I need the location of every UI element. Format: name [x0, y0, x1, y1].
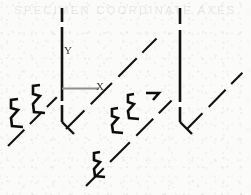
zigzag-symbol-2 — [33, 85, 45, 113]
axis-label-x: X — [96, 81, 104, 92]
diagonal-line-2 — [66, 22, 173, 129]
zigzag-symbol-3 — [112, 108, 123, 133]
zigzag-symbols-group — [11, 85, 159, 177]
line-drawing — [0, 0, 251, 195]
diagonal-lines-group — [8, 22, 249, 186]
vertical-hooks-group — [62, 122, 192, 134]
arrow-tip-symbol-1 — [146, 93, 159, 100]
right-vertical-hook — [180, 122, 192, 134]
figure-canvas: SPECIMEN COORDINATE AXES — [0, 0, 251, 195]
zigzag-symbol-4 — [128, 94, 139, 119]
zigzag-symbol-1 — [11, 99, 23, 127]
axis-label-y: Y — [64, 45, 72, 56]
vertical-lines-group — [62, 8, 180, 122]
diagonal-line-4 — [187, 66, 249, 129]
